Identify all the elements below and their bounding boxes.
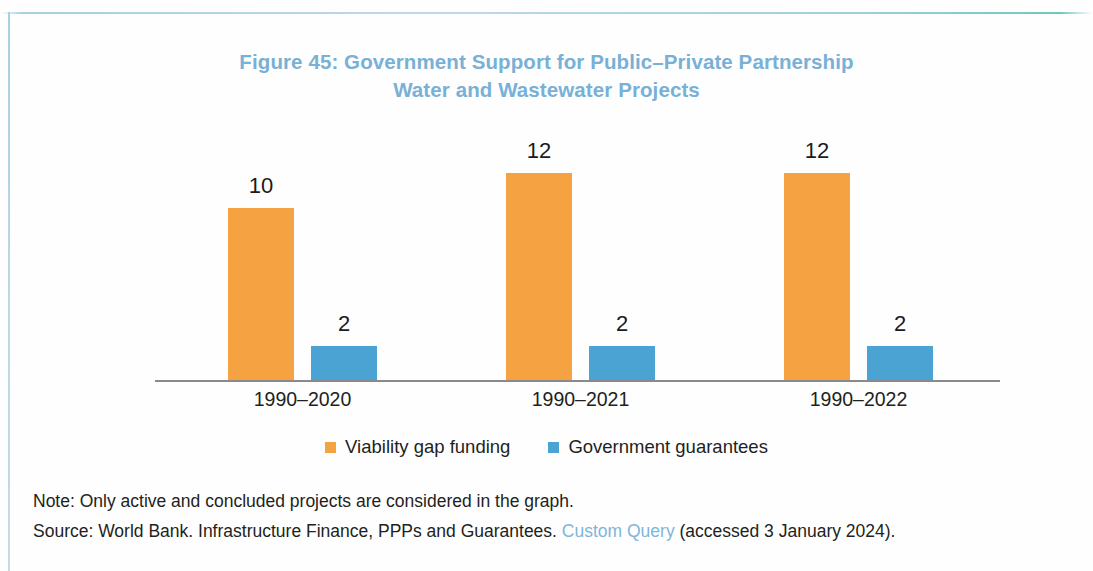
x-axis-label-1990–2021: 1990–2021	[506, 388, 655, 411]
bar-government-guarantees-1990–2021: 2	[589, 139, 655, 380]
custom-query-link[interactable]: Custom Query	[562, 521, 675, 541]
legend-label: Viability gap funding	[345, 436, 510, 458]
x-axis-line	[155, 380, 1000, 382]
bar-government-guarantees-1990–2022: 2	[867, 139, 933, 380]
bar-rect	[867, 346, 933, 380]
x-axis-label-1990–2020: 1990–2020	[228, 388, 377, 411]
source-prefix: Source: World Bank. Infrastructure Finan…	[33, 521, 562, 541]
bar-viability-gap-funding-1990–2021: 12	[506, 139, 572, 380]
bar-value-label: 2	[867, 311, 933, 337]
legend-label: Government guarantees	[568, 436, 768, 458]
bar-rect	[228, 208, 294, 380]
bar-rect	[506, 173, 572, 380]
bar-value-label: 10	[228, 173, 294, 199]
legend-swatch-icon	[548, 442, 559, 453]
legend-swatch-icon	[325, 442, 336, 453]
figure-notes: Note: Only active and concluded projects…	[33, 486, 1073, 546]
bar-value-label: 12	[506, 138, 572, 164]
figure-page: Figure 45: Government Support for Public…	[0, 0, 1093, 571]
bar-value-label: 2	[311, 311, 377, 337]
bar-value-label: 12	[784, 138, 850, 164]
legend-item-viability-gap-funding[interactable]: Viability gap funding	[325, 436, 510, 458]
legend-item-government-guarantees[interactable]: Government guarantees	[548, 436, 768, 458]
chart-legend: Viability gap fundingGovernment guarante…	[0, 436, 1093, 458]
bar-rect	[784, 173, 850, 380]
bar-viability-gap-funding-1990–2022: 12	[784, 139, 850, 380]
bar-government-guarantees-1990–2020: 2	[311, 139, 377, 380]
source-text: Source: World Bank. Infrastructure Finan…	[33, 516, 1073, 546]
source-suffix: (accessed 3 January 2024).	[675, 521, 896, 541]
x-axis-label-1990–2022: 1990–2022	[784, 388, 933, 411]
bar-rect	[589, 346, 655, 380]
note-text: Note: Only active and concluded projects…	[33, 486, 1073, 516]
bar-rect	[311, 346, 377, 380]
bar-viability-gap-funding-1990–2020: 10	[228, 139, 294, 380]
bar-value-label: 2	[589, 311, 655, 337]
